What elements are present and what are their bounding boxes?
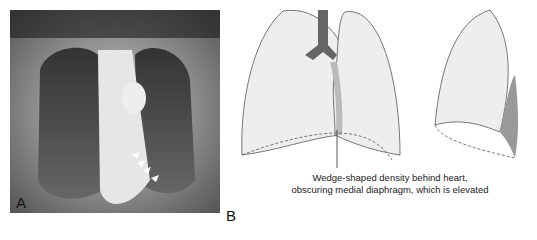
- chest-xray-image: A: [10, 10, 220, 213]
- panel-a-label: A: [16, 194, 26, 211]
- panel-b-label: B: [226, 207, 236, 224]
- lung-diagram: [240, 0, 537, 175]
- annotation-text: Wedge-shaped density behind heart, obscu…: [270, 172, 510, 196]
